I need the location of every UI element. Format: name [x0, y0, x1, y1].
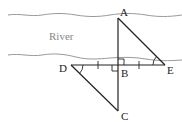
label-c: C — [121, 110, 128, 122]
label-a: A — [120, 6, 128, 18]
river-bank-top — [8, 14, 182, 17]
label-e: E — [167, 64, 174, 76]
river-label: River — [49, 30, 74, 42]
river-triangle-diagram: River A B C D E — [0, 0, 182, 122]
right-angle-marker-lower — [112, 65, 118, 71]
label-b: B — [121, 67, 128, 79]
angle-arc-e — [153, 57, 157, 66]
right-angle-marker-upper — [118, 59, 124, 65]
angle-arc-d — [80, 65, 84, 74]
segment-dc — [71, 65, 118, 111]
label-d: D — [59, 62, 67, 74]
